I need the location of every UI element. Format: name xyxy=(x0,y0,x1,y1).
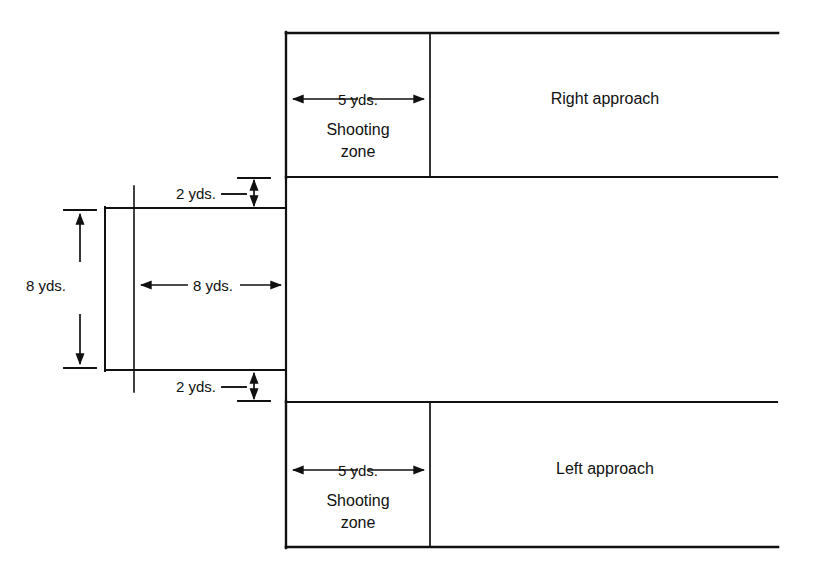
dimension-5yds-bottom: 5 yds. xyxy=(293,462,424,479)
dimension-5yds-top: 5 yds. xyxy=(293,91,424,108)
dimension-2yds-top: 2 yds. xyxy=(176,178,270,206)
dimension-8yds-vertical: 8 yds. xyxy=(26,210,96,368)
right-approach-label: Right approach xyxy=(551,90,660,107)
dim-2yds-bottom-label: 2 yds. xyxy=(176,378,216,395)
dim-8yds-horizontal-label: 8 yds. xyxy=(193,277,233,294)
field-diagram-svg: 5 yds. Shooting zone Right approach 5 yd… xyxy=(0,0,817,579)
dim-5yds-bottom-label: 5 yds. xyxy=(338,462,378,479)
bottom-shooting-zone-label: Shooting zone xyxy=(326,492,389,531)
dimension-8yds-horizontal: 8 yds. xyxy=(141,277,281,294)
top-shooting-zone-label: Shooting zone xyxy=(326,121,389,160)
top-shooting-zone-line2: zone xyxy=(341,143,376,160)
field-diagram: 5 yds. Shooting zone Right approach 5 yd… xyxy=(0,0,817,579)
dim-2yds-top-label: 2 yds. xyxy=(176,185,216,202)
bottom-shooting-zone-line2: zone xyxy=(341,514,376,531)
bottom-shooting-zone-line1: Shooting xyxy=(326,492,389,509)
dim-8yds-vertical-label: 8 yds. xyxy=(26,277,66,294)
dim-5yds-top-label: 5 yds. xyxy=(338,91,378,108)
left-approach-label: Left approach xyxy=(556,460,654,477)
top-shooting-zone-line1: Shooting xyxy=(326,121,389,138)
dimension-2yds-bottom: 2 yds. xyxy=(176,373,270,401)
